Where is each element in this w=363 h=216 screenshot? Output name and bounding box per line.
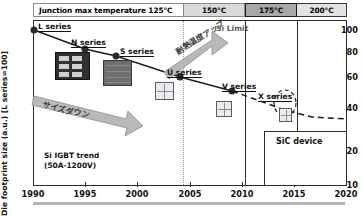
temp-cell-175c-label: 175°C — [259, 6, 283, 15]
label-u-series: U series — [167, 68, 202, 78]
module-photo-v-series — [216, 101, 232, 117]
y-tick-80: 80 — [327, 48, 358, 56]
y-tick-100: 100 — [327, 26, 358, 34]
sic-device-label: SiC device — [276, 137, 322, 146]
module-photo-u-series — [155, 82, 174, 100]
temp-cell-125c-label: Junction max temperature 125°C — [39, 6, 172, 15]
temp-cell-200c-label: 200°C — [309, 6, 333, 15]
zone-divider-175c — [245, 21, 246, 185]
x-tick-2010: 2010 — [225, 189, 259, 199]
temp-cell-150c-label: 150°C — [202, 6, 226, 15]
temp-cell-125c: Junction max temperature 125°C — [33, 3, 183, 17]
x-tick-1995: 1995 — [68, 189, 102, 199]
x-tick-2000: 2000 — [120, 189, 154, 199]
y-tick-60: 60 — [327, 73, 358, 81]
label-x-series: X series — [258, 92, 292, 102]
label-s-series: S series — [120, 47, 154, 57]
module-photo-s-series — [103, 60, 132, 86]
label-n-series: N series — [71, 38, 106, 48]
marker-s-series — [113, 53, 120, 60]
module-photo-x-series — [279, 108, 292, 122]
label-v-series: V series — [222, 82, 256, 92]
x-tickmark-2010 — [242, 182, 243, 187]
si-limit-label: Si Limit — [216, 24, 248, 33]
x-tickmark-2000 — [137, 182, 138, 187]
x-tick-2005: 2005 — [173, 189, 207, 199]
igbt-trend-caption-line1: Si IGBT trend — [44, 151, 99, 161]
x-tickmark-1995 — [85, 182, 86, 187]
temperature-band-header: Junction max temperature 125°C 150°C 175… — [33, 3, 347, 17]
temp-cell-150c: 150°C — [183, 3, 245, 17]
module-photo-n-series — [55, 52, 90, 80]
y-axis-title: Die footprint size (a.u.) [L series=100] — [0, 50, 9, 216]
label-l-series: L series — [38, 22, 71, 32]
igbt-trend-caption: Si IGBT trend (50A-1200V) — [44, 151, 99, 171]
x-axis-baseline-rule — [33, 202, 345, 205]
temp-cell-200c: 200°C — [297, 3, 347, 17]
temp-cell-175c: 175°C — [245, 3, 297, 17]
x-tickmark-2005 — [190, 182, 191, 187]
marker-l-series — [31, 27, 38, 34]
igbt-trend-caption-line2: (50A-1200V) — [44, 161, 99, 171]
x-tick-2020: 2020 — [329, 189, 363, 199]
x-tick-2015: 2015 — [277, 189, 311, 199]
y-tick-40: 40 — [327, 104, 358, 112]
x-tick-1990: 1990 — [16, 189, 50, 199]
